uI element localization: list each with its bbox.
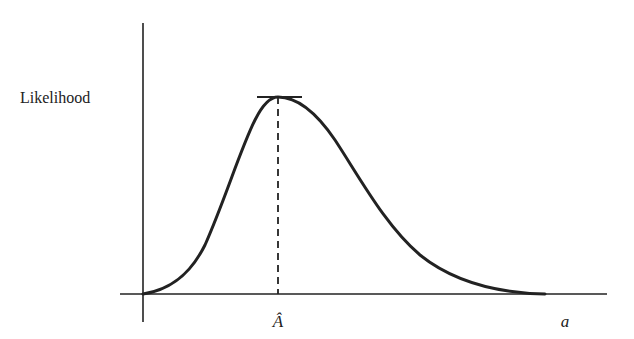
estimate-tick-label: Â — [272, 312, 284, 331]
likelihood-curve — [143, 97, 545, 294]
x-axis-label: a — [561, 312, 570, 331]
likelihood-chart: Likelihood Â a — [0, 0, 634, 339]
y-axis-label: Likelihood — [20, 89, 90, 106]
